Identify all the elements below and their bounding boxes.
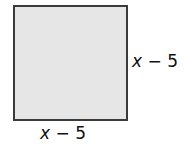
- minus-sign: −: [147, 51, 161, 71]
- variable-x: x: [40, 123, 50, 143]
- minus-sign: −: [55, 123, 69, 143]
- bottom-side-label: x − 5: [40, 125, 86, 142]
- variable-x: x: [132, 51, 142, 71]
- constant-value: 5: [75, 123, 86, 143]
- constant-value: 5: [167, 51, 178, 71]
- right-side-label: x − 5: [132, 53, 178, 70]
- square-shape: [13, 5, 128, 121]
